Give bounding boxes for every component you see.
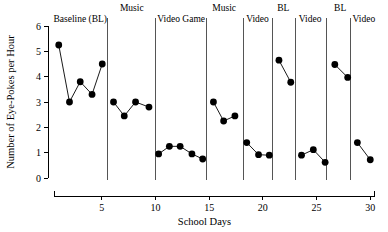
data-point [322, 159, 329, 166]
data-point [310, 146, 317, 153]
data-point [220, 118, 227, 125]
data-point [298, 152, 305, 159]
x-tick-label: 20 [258, 202, 268, 213]
data-point [99, 61, 106, 68]
data-point [189, 151, 196, 158]
data-point [166, 143, 173, 150]
data-point [77, 78, 84, 85]
data-point [266, 152, 273, 159]
data-point [66, 99, 73, 106]
data-point [287, 79, 294, 86]
y-tick-label: 6 [36, 21, 41, 32]
y-tick-label: 2 [36, 122, 41, 133]
x-axis-title: School Days [178, 216, 231, 227]
phase-series-line [279, 60, 291, 82]
phase-label: Baseline (BL) [53, 14, 107, 25]
data-point [121, 113, 128, 120]
data-point [89, 91, 96, 98]
data-point [146, 104, 153, 111]
eye-pokes-line-chart: 0123456 Number of Eye-Pokes per Hour 510… [0, 0, 388, 232]
phase-labels: Baseline (BL)MusicVideo GameMusicVideoBL… [53, 3, 375, 25]
data-point [55, 42, 62, 49]
y-tick-label: 1 [36, 147, 41, 158]
phase-label: Video [246, 14, 269, 24]
data-point [331, 61, 338, 68]
phase-label: Video Game [157, 14, 205, 24]
phase-series-line [114, 102, 149, 116]
data-point [232, 113, 239, 120]
y-axis-ticks: 0123456 [36, 21, 48, 184]
data-point [199, 156, 206, 163]
phase-label: Music [120, 3, 144, 13]
phase-series-line [59, 45, 103, 102]
x-axis-group: 51015202530 School Days [54, 191, 375, 227]
x-axis-ticks: 51015202530 [54, 191, 375, 213]
y-axis-group: 0123456 Number of Eye-Pokes per Hour [5, 21, 48, 184]
data-point [177, 143, 184, 150]
y-tick-label: 4 [36, 71, 41, 82]
x-tick-label: 5 [99, 202, 104, 213]
y-tick-label: 5 [36, 46, 41, 57]
data-point [367, 156, 374, 163]
phase-label: BL [277, 3, 289, 13]
y-tick-label: 3 [36, 97, 41, 108]
y-tick-label: 0 [36, 173, 41, 184]
x-tick-label: 15 [204, 202, 214, 213]
data-point [354, 139, 361, 146]
chart-container: 0123456 Number of Eye-Pokes per Hour 510… [0, 0, 388, 232]
phase-divider-lines [107, 18, 351, 180]
phase-label: Video [299, 14, 322, 24]
data-point [110, 99, 117, 106]
data-point [344, 74, 351, 81]
data-point [132, 99, 139, 106]
data-point [255, 151, 262, 158]
data-point [210, 99, 217, 106]
y-axis-title: Number of Eye-Pokes per Hour [5, 35, 16, 169]
data-point [155, 151, 162, 158]
x-tick-label: 25 [312, 202, 322, 213]
phase-label: Music [212, 3, 236, 13]
x-tick-label: 10 [150, 202, 160, 213]
data-point [276, 57, 283, 64]
x-tick-label: 30 [365, 202, 375, 213]
data-point [243, 139, 250, 146]
phase-label: Video [352, 14, 375, 24]
phase-label: BL [334, 3, 346, 13]
